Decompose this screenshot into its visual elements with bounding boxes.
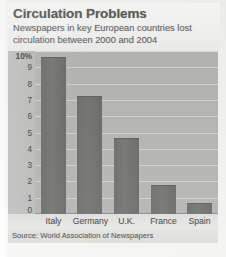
plot-area: [35, 51, 218, 214]
bar-germany: [77, 96, 102, 214]
y-axis-tick-label: 7: [27, 95, 32, 104]
source-band: Source: World Association of Newspapers: [8, 229, 218, 243]
chart-title: Circulation Problems: [13, 6, 147, 21]
x-axis-tick-label: Germany: [72, 216, 109, 226]
bar-italy: [41, 57, 66, 214]
x-axis: ItalyGermanyU.K.FranceSpain: [8, 214, 218, 229]
y-axis-tick-label: 4: [27, 144, 32, 153]
bar-spain: [187, 203, 212, 214]
x-axis-tick-label: Spain: [181, 216, 218, 226]
y-axis-tick-label: 3: [27, 161, 32, 170]
y-axis-tick-label: 10%: [16, 52, 32, 61]
y-axis-tick-label: 8: [27, 79, 32, 88]
chart-subtitle: Newspapers in key European countries los…: [13, 23, 203, 46]
bar-france: [151, 185, 176, 214]
gridline: [35, 51, 218, 52]
plot-region: 10%9876543210: [8, 51, 218, 214]
x-axis-tick-label: U.K.: [108, 216, 145, 226]
bar-u-k: [114, 138, 139, 214]
y-axis-tick-label: 9: [27, 63, 32, 72]
chart-figure: Circulation Problems Newspapers in key E…: [0, 0, 226, 257]
x-axis-tick-label: France: [145, 216, 182, 226]
y-axis-tick-label: 2: [27, 177, 32, 186]
x-axis-tick-label: Italy: [35, 216, 72, 226]
y-axis-tick-label: 5: [27, 128, 32, 137]
chart-header: Circulation Problems Newspapers in key E…: [8, 3, 220, 51]
source-note: Source: World Association of Newspapers: [12, 231, 153, 240]
y-axis: 10%9876543210: [8, 51, 35, 214]
y-axis-tick-label: 1: [27, 193, 32, 202]
y-axis-tick-label: 6: [27, 112, 32, 121]
